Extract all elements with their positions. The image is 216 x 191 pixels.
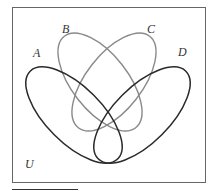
venn-diagram: A B C D U <box>0 0 216 191</box>
set-a-label: A <box>32 46 41 60</box>
set-d-label: D <box>177 45 187 59</box>
set-c-ellipse <box>56 19 172 145</box>
set-b-label: B <box>62 22 70 36</box>
universe-frame <box>13 8 206 183</box>
universe-label: U <box>25 157 35 171</box>
set-c-label: C <box>147 22 156 36</box>
